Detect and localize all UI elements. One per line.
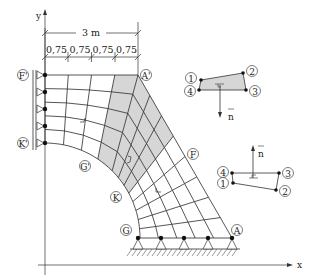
top-node-2: 2 [249,67,255,77]
x-axis-label: x [297,260,302,270]
segment-2-label: 0,75 [69,44,90,55]
normal-label-bottom: n [258,149,264,159]
bottom-node-1: 1 [220,179,226,189]
label-F: F [190,150,196,160]
dimension-annotations: 3 m 0,75 0,75 0,75 0,75 [42,22,141,75]
shaded-element-band [98,75,173,193]
label-F-prime: F' [19,71,28,81]
segment-1-label: 0,75 [46,44,67,55]
mesh-diagram: y x 3 m 0,75 0,75 0,75 0,75 [0,0,311,276]
label-A: A [233,226,241,236]
label-K: K [113,193,120,203]
label-A-prime: A' [141,71,151,81]
top-node-3: 3 [252,87,258,97]
label-G-prime: G' [80,162,90,172]
top-node-1: 1 [188,74,194,84]
normal-label-top: n [228,112,234,122]
segment-3-label: 0,75 [92,44,113,55]
label-G: G [122,226,129,236]
label-K-prime: K' [18,139,27,149]
bottom-pinned-supports [127,236,240,256]
total-width-label: 3 m [82,27,100,38]
y-axis-label: y [35,11,42,21]
segment-4-label: 0,75 [116,44,137,55]
top-node-4: 4 [187,87,193,97]
bottom-node-3: 3 [285,169,291,179]
element-detail-bottom: 4 3 1 2 n [218,145,294,197]
bottom-node-4: 4 [220,168,226,178]
bottom-node-2: 2 [282,187,288,197]
element-detail-top: 1 2 3 4 n [185,66,261,123]
